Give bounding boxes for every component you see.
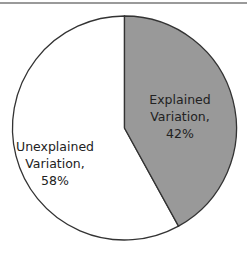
label-explained-line-2: Variation,: [150, 109, 209, 124]
label-unexplained-line-3: 58%: [41, 173, 69, 188]
label-explained-line-1: Explained: [149, 92, 210, 107]
label-explained-line-3: 42%: [166, 126, 194, 141]
label-unexplained-line-2: Variation,: [25, 156, 84, 171]
pie-chart: Explained Variation, 42% Unexplained Var…: [0, 0, 247, 256]
label-unexplained-line-1: Unexplained: [16, 139, 94, 154]
